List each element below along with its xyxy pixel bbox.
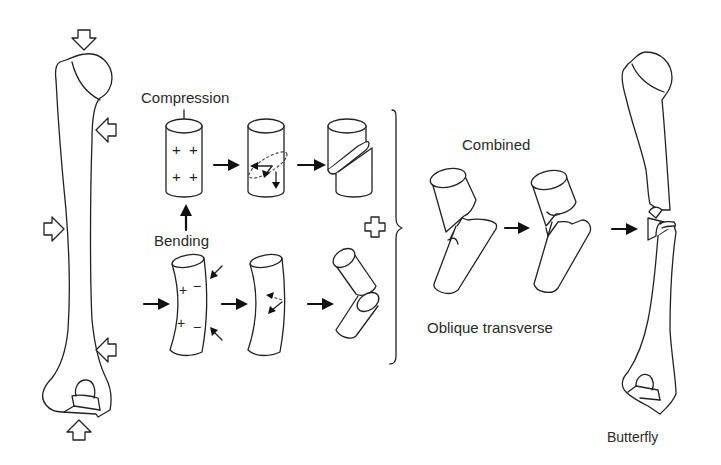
hollow-arrow-up-icon [67,420,91,440]
label-bending: Bending [154,232,209,249]
compression-sequence: + + + + [166,110,372,230]
svg-text:−: − [193,319,201,335]
svg-text:−: − [193,278,201,294]
bending-sequence: + − + − [144,245,382,356]
diagram-drawing: + + + + [0,0,721,465]
label-combined: Combined [462,136,530,153]
combined-stage-2 [530,167,591,292]
butterfly-fractured-bone [622,52,676,414]
label-compression: Compression [141,89,229,106]
compression-cylinder-2 [246,119,291,197]
compression-cylinder-1: + + + + [166,119,202,197]
bending-cylinder-2 [248,252,285,355]
hollow-arrow-left-icon [96,118,116,142]
svg-text:+: + [172,141,181,158]
plus-symbol-icon [365,217,385,237]
svg-text:+: + [189,168,198,185]
svg-text:+: + [177,315,185,331]
curly-brace [390,110,402,364]
compression-cylinder-3-sheared [328,119,372,197]
svg-text:+: + [189,141,198,158]
bending-cylinder-1: + − + − [170,252,207,355]
svg-text:+: + [179,282,187,298]
label-butterfly: Butterfly [607,429,658,445]
hollow-arrow-right-icon [44,217,64,241]
svg-text:+: + [172,168,181,185]
fracture-diagram: + + + + [0,0,721,465]
hollow-arrow-down-icon [72,30,96,50]
label-oblique-transverse: Oblique transverse [427,319,553,336]
combined-sequence [429,165,638,293]
bending-broken-pieces [330,245,383,338]
combined-stage-1 [429,165,497,293]
